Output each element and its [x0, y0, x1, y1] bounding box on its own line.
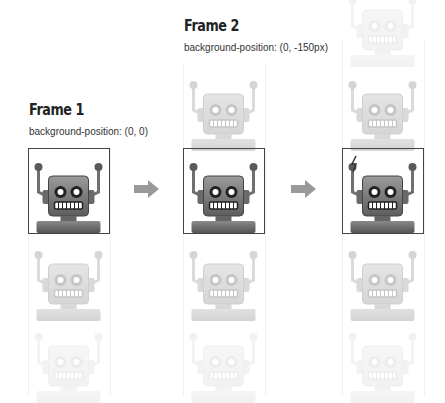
frame-3-viewport [342, 148, 424, 234]
frame-2-viewport [183, 148, 265, 234]
robot-sprite-icon [28, 318, 109, 403]
robot-sprite-icon [183, 318, 264, 403]
frame-1-viewport [28, 148, 110, 234]
robot-sprite-icon [183, 66, 264, 151]
robot-sprite-icon [342, 66, 423, 151]
frame-2-caption: background-position: (0, -150px) [184, 42, 328, 53]
right-arrow-icon [291, 180, 317, 198]
frame-1-caption: background-position: (0, 0) [29, 126, 148, 137]
robot-sprite-icon [28, 236, 109, 321]
frame-2-title: Frame 2 [184, 17, 239, 35]
robot-sprite-icon [183, 236, 264, 321]
robot-sprite-icon [342, 0, 423, 67]
frame-1-title: Frame 1 [29, 101, 84, 119]
robot-sprite-icon [342, 236, 423, 321]
right-arrow-icon [134, 180, 160, 198]
robot-sprite-icon [342, 318, 423, 403]
